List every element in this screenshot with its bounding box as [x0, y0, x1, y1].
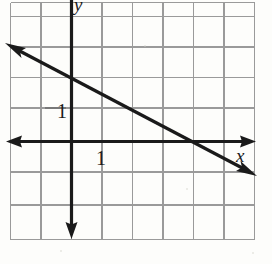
x-axis-label: x	[236, 146, 244, 165]
y-axis-unit-tick-label: 1	[57, 101, 67, 121]
y-axis-label: y	[74, 0, 82, 14]
graph-screenshot: y x 1 1	[0, 0, 272, 264]
paper-speck	[186, 188, 188, 190]
paper-speck	[60, 250, 62, 252]
coordinate-plane-figure	[0, 0, 272, 264]
x-axis-unit-tick-label: 1	[96, 148, 106, 168]
paper-speck	[252, 252, 254, 254]
paper-speck	[144, 45, 146, 47]
